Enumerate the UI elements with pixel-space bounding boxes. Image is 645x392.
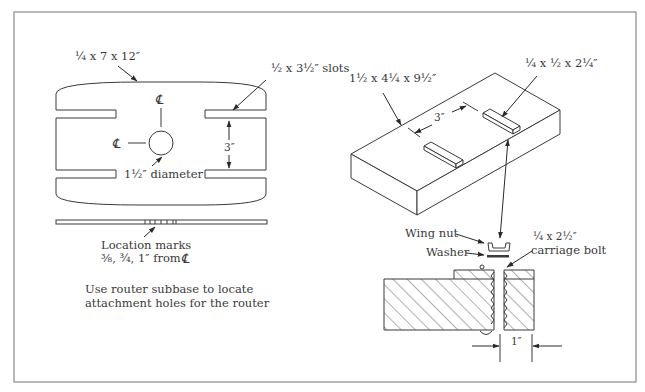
slots-label: ½ x 3½″ slots bbox=[271, 61, 349, 75]
plate-size-label: ¼ x 7 x 12″ bbox=[75, 49, 141, 63]
centerline-symbol-left: ℄ bbox=[112, 136, 121, 151]
router-jig-diagram: ℄ ℄ ¼ x 7 x 12″ ½ x 3½″ slots 3″ 1½″ dia… bbox=[0, 0, 645, 392]
gap-dimension-label: 1″ bbox=[511, 335, 522, 347]
wing-nut-label: Wing nut bbox=[405, 226, 459, 240]
washer-label: Washer bbox=[426, 245, 470, 259]
washer-shape bbox=[487, 255, 509, 258]
slot-spacing-label: 3″ bbox=[224, 141, 235, 153]
hole-diameter-label: 1½″ diameter bbox=[124, 167, 203, 181]
centerline-symbol-top: ℄ bbox=[155, 92, 164, 107]
base-size-label: 1½ x 4¼ x 9½″ bbox=[349, 71, 437, 85]
note-line-1: Use router subbase to locate bbox=[85, 282, 253, 296]
centerline-symbol-marks: ℄ bbox=[181, 251, 190, 266]
location-marks-title: Location marks bbox=[101, 238, 191, 252]
bolt-size-label: ¼ x 2½″ bbox=[533, 230, 577, 242]
bolt-type-label: carriage bolt bbox=[531, 243, 607, 257]
location-marks-values: ⅜, ¾, 1″ from bbox=[101, 251, 181, 265]
runner-spacing-label: 3″ bbox=[434, 111, 445, 123]
note-line-2: attachment holes for the router bbox=[85, 296, 270, 310]
runner-size-label: ¼ x ½ x 2¼″ bbox=[525, 56, 598, 70]
